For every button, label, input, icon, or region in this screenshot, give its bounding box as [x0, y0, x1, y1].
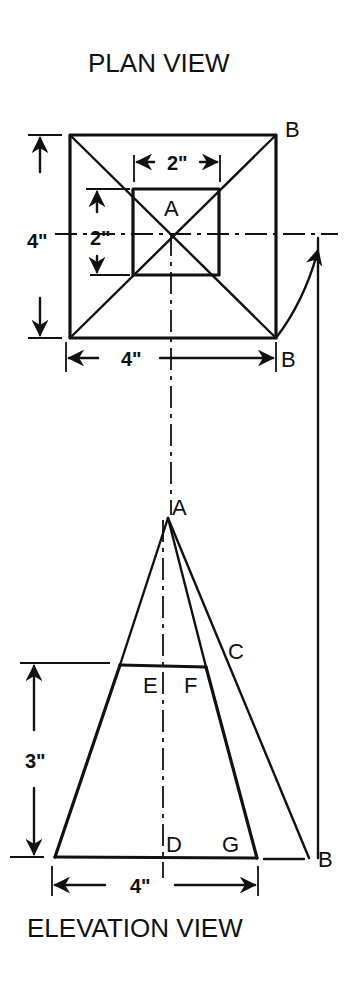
dim-inner-width: 2" — [167, 152, 188, 174]
label-elev-e: E — [143, 673, 158, 698]
label-elev-a: A — [172, 495, 187, 520]
elevation-view: 3" 4" A C E F D G B — [10, 495, 333, 897]
line-a-right-f — [168, 518, 206, 667]
frustum-left-edge — [55, 665, 120, 857]
label-elev-b: B — [318, 847, 333, 872]
label-plan-a: A — [164, 196, 179, 221]
plan-view-title: PLAN VIEW — [88, 48, 230, 78]
plan-view: 4" 4" 2" 2" A B B — [27, 117, 338, 858]
frustum-base — [55, 857, 257, 858]
label-elev-d: D — [166, 832, 182, 857]
label-elev-g: G — [222, 832, 239, 857]
dim-outer-width: 4" — [121, 348, 142, 370]
line-a-left — [120, 518, 168, 665]
rotation-arc — [276, 250, 318, 338]
dim-height: 3" — [25, 750, 46, 772]
frustum-projection-drawing: PLAN VIEW 4" 4" 2" — [0, 0, 359, 991]
elevation-view-title: ELEVATION VIEW — [27, 913, 243, 943]
label-elev-f: F — [184, 673, 197, 698]
label-elev-c: C — [228, 639, 244, 664]
label-plan-b-top: B — [285, 117, 300, 142]
dim-outer-height: 4" — [27, 230, 48, 252]
label-plan-b-bottom: B — [281, 347, 296, 372]
frustum-right-edge — [206, 667, 257, 858]
dim-base-width: 4" — [130, 875, 151, 897]
dim-inner-height: 2" — [90, 227, 111, 249]
